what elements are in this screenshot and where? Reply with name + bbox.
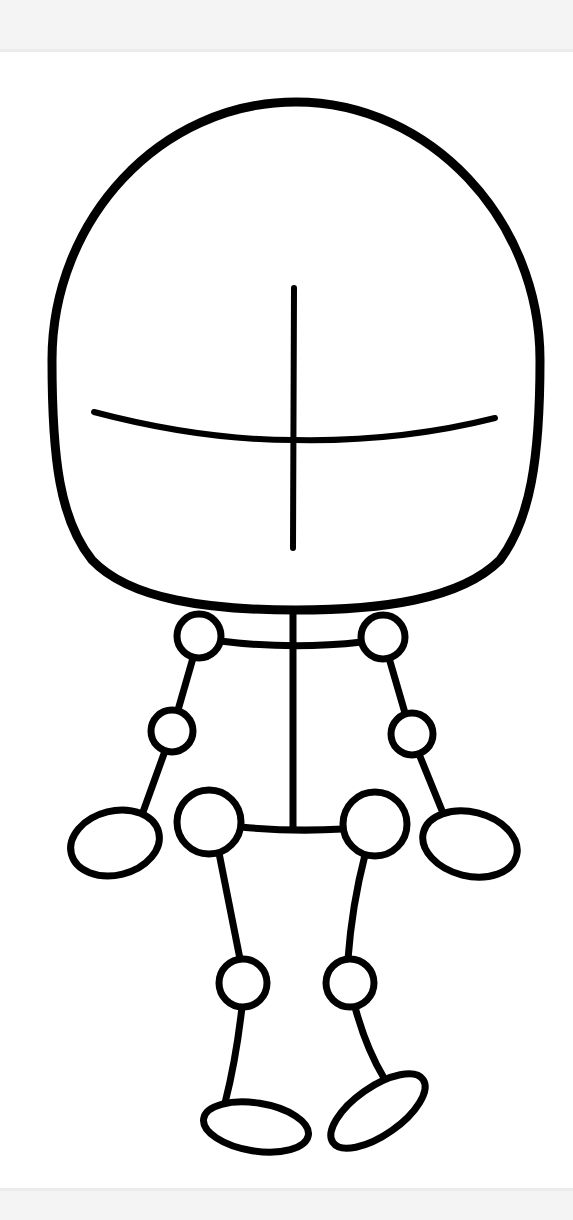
left-foot xyxy=(200,1095,312,1159)
left-hand xyxy=(64,801,167,885)
left-thigh xyxy=(219,853,240,959)
left-forearm xyxy=(143,751,165,812)
right-thigh xyxy=(348,855,365,959)
left-upper-arm xyxy=(178,658,193,710)
left-shin xyxy=(225,1007,242,1103)
right-foot xyxy=(319,1060,437,1162)
left-elbow-joint xyxy=(151,710,193,752)
left-shoulder-joint xyxy=(177,614,221,658)
right-knee-joint xyxy=(326,959,374,1007)
hip-line xyxy=(241,827,343,830)
right-shin xyxy=(355,1007,384,1078)
right-forearm xyxy=(419,754,443,813)
left-hip-joint xyxy=(177,790,241,854)
left-knee-joint xyxy=(219,959,267,1007)
right-elbow-joint xyxy=(391,713,433,755)
face-vertical-guide xyxy=(293,288,294,548)
right-shoulder-joint xyxy=(361,615,405,659)
right-upper-arm xyxy=(389,658,405,713)
right-hip-joint xyxy=(343,792,407,856)
chibi-figure-drawing xyxy=(0,0,573,1220)
right-hand xyxy=(416,801,525,886)
